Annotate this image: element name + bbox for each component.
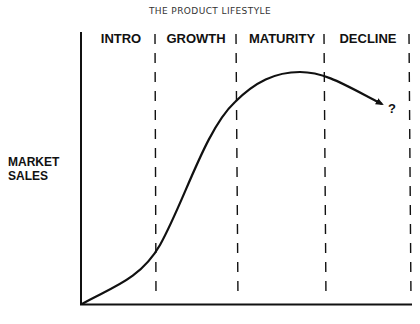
lifecycle-diagram: ? <box>0 0 420 324</box>
divider-maturity-decline <box>324 34 326 300</box>
divider-decline-end <box>409 34 411 300</box>
divider-intro-growth <box>155 34 156 296</box>
end-question-mark: ? <box>388 101 396 116</box>
divider-growth-maturity <box>236 34 238 300</box>
lifecycle-curve <box>82 72 382 304</box>
